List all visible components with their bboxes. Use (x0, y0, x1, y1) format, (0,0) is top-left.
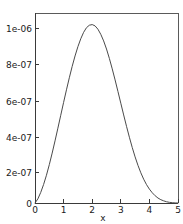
y-tick-label-1: 2e-07 (6, 168, 32, 178)
line-chart-plot: 0 2e-07 4e-07 6e-07 8e-07 1e-06 0 1 2 3 … (0, 0, 183, 224)
x-tick-label-3: 3 (118, 205, 124, 215)
y-tick-label-5: 1e-06 (6, 24, 32, 34)
x-tick-label-5: 5 (175, 205, 181, 215)
y-tick-label-4: 8e-07 (6, 60, 32, 70)
y-tick-label-2: 4e-07 (6, 133, 32, 143)
x-tick-label-4: 4 (147, 205, 153, 215)
x-axis-title: x (100, 213, 106, 223)
x-tick-labels: 0 1 2 3 4 5 (32, 205, 181, 215)
x-tick-label-1: 1 (61, 205, 67, 215)
plot-area-background (35, 13, 178, 203)
chart-container: 0 2e-07 4e-07 6e-07 8e-07 1e-06 0 1 2 3 … (0, 0, 183, 224)
y-tick-labels: 0 2e-07 4e-07 6e-07 8e-07 1e-06 (6, 24, 32, 209)
x-tick-label-2: 2 (89, 205, 95, 215)
y-tick-label-3: 6e-07 (6, 97, 32, 107)
x-tick-label-0: 0 (32, 205, 38, 215)
